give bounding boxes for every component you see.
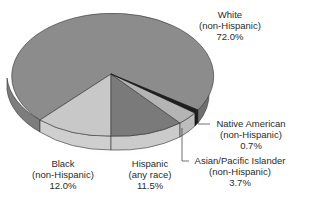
label-native-sub: (non-Hispanic)	[210, 129, 292, 140]
label-native-value: 0.7%	[210, 140, 292, 151]
label-white-value: 72.0%	[190, 31, 270, 42]
label-black: Black (non-Hispanic) 12.0%	[28, 158, 98, 191]
label-hispanic-name: Hispanic	[120, 158, 180, 169]
label-asian-sub: (non-Hispanic)	[188, 166, 292, 177]
label-black-name: Black	[28, 158, 98, 169]
label-native: Native American (non-Hispanic) 0.7%	[210, 118, 292, 151]
label-hispanic: Hispanic (any race) 11.5%	[120, 158, 180, 191]
label-native-name: Native American	[210, 118, 292, 129]
label-hispanic-sub: (any race)	[120, 169, 180, 180]
label-white-sub: (non-Hispanic)	[190, 20, 270, 31]
label-asian-name: Asian/Pacific Islander	[188, 155, 292, 166]
label-black-value: 12.0%	[28, 180, 98, 191]
label-asian-value: 3.7%	[188, 177, 292, 188]
label-white-name: White	[190, 9, 270, 20]
label-black-sub: (non-Hispanic)	[28, 169, 98, 180]
label-white: White (non-Hispanic) 72.0%	[190, 9, 270, 42]
label-hispanic-value: 11.5%	[120, 180, 180, 191]
label-asian: Asian/Pacific Islander (non-Hispanic) 3.…	[188, 155, 292, 188]
